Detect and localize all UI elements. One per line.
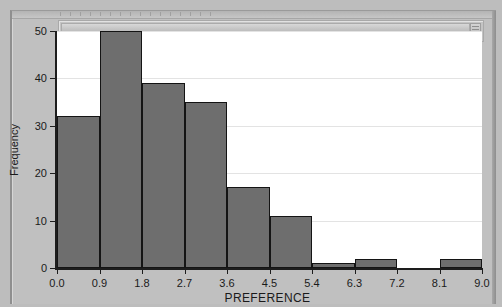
histogram-bar xyxy=(185,102,228,268)
x-axis-tick-label: 8.1 xyxy=(432,277,447,289)
x-axis-tick-label: 7.2 xyxy=(389,277,404,289)
y-axis-tick xyxy=(50,268,57,269)
y-axis-tick-label: 30 xyxy=(35,120,47,132)
y-axis-tick-label: 0 xyxy=(41,262,47,274)
x-axis-tick-label: 6.3 xyxy=(347,277,362,289)
x-axis-tick-label: 1.8 xyxy=(134,277,149,289)
y-axis-tick xyxy=(50,78,57,79)
y-axis-tick-label: 20 xyxy=(35,167,47,179)
x-axis-tick xyxy=(142,268,143,274)
bar-series xyxy=(57,31,482,268)
y-axis-tick xyxy=(50,31,57,32)
x-axis-tick-label: 2.7 xyxy=(177,277,192,289)
x-axis-tick xyxy=(440,268,441,274)
y-axis-tick xyxy=(50,221,57,222)
y-axis-tick xyxy=(50,173,57,174)
x-axis-tick xyxy=(185,268,186,274)
y-axis-tick-label: 40 xyxy=(35,72,47,84)
x-axis-title: PREFERENCE xyxy=(55,291,480,305)
x-axis-tick-label: 3.6 xyxy=(219,277,234,289)
histogram-bar xyxy=(270,216,313,268)
x-axis-tick-label: 5.4 xyxy=(304,277,319,289)
x-axis-tick xyxy=(312,268,313,274)
x-axis-tick xyxy=(482,268,483,274)
x-axis-tick xyxy=(100,268,101,274)
histogram-bar xyxy=(100,31,143,268)
x-axis-tick-label: 0.0 xyxy=(49,277,64,289)
y-axis-title: Frequency xyxy=(8,124,20,176)
histogram-bar xyxy=(355,259,398,268)
histogram-chart: 01020304050 0.00.91.82.73.64.55.46.37.28… xyxy=(0,0,502,307)
x-axis-tick xyxy=(57,268,58,274)
histogram-bar xyxy=(440,259,483,268)
x-axis-tick xyxy=(227,268,228,274)
histogram-bar xyxy=(142,83,185,268)
x-axis-tick xyxy=(397,268,398,274)
histogram-bar xyxy=(227,187,270,268)
x-axis-tick xyxy=(355,268,356,274)
x-axis-tick-label: 4.5 xyxy=(262,277,277,289)
x-axis-tick-label: 0.9 xyxy=(92,277,107,289)
app-root: 01020304050 0.00.91.82.73.64.55.46.37.28… xyxy=(0,0,502,307)
x-axis-tick-label: 9.0 xyxy=(474,277,489,289)
plot-area: 01020304050 0.00.91.82.73.64.55.46.37.28… xyxy=(55,31,482,270)
histogram-bar xyxy=(57,116,100,268)
y-axis-tick xyxy=(50,126,57,127)
histogram-bar xyxy=(312,263,355,268)
y-axis-tick-label: 50 xyxy=(35,25,47,37)
x-axis-tick xyxy=(270,268,271,274)
y-axis-tick-label: 10 xyxy=(35,215,47,227)
